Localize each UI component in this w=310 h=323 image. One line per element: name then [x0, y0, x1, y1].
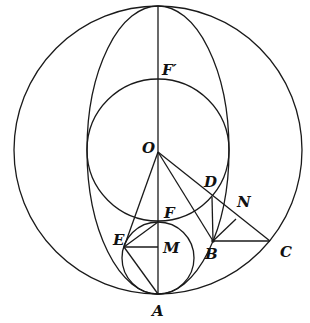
geometry-diagram: F′ O D N F E M B C A	[0, 0, 310, 323]
label-F: F	[163, 204, 176, 222]
segment-OB	[158, 152, 213, 241]
label-O: O	[142, 139, 155, 157]
label-F-prime: F′	[161, 61, 177, 79]
label-D: D	[203, 173, 217, 191]
diagram-canvas: F′ O D N F E M B C A	[0, 0, 310, 323]
label-E: E	[112, 231, 125, 249]
label-C: C	[280, 243, 292, 261]
segment-OE	[124, 152, 158, 247]
segment-DB	[212, 197, 213, 241]
label-M: M	[162, 239, 180, 257]
label-N: N	[236, 193, 252, 211]
point-B-dot	[211, 239, 215, 243]
label-B: B	[204, 245, 218, 263]
segment-OC	[158, 152, 270, 241]
segment-EA	[124, 247, 158, 294]
label-A: A	[150, 302, 164, 320]
segment-BN	[213, 219, 236, 241]
